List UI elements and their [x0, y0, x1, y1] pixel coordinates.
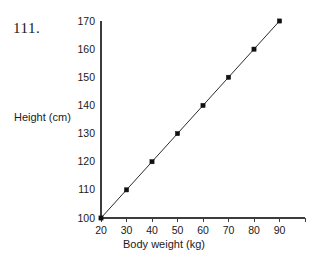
svg-text:60: 60	[197, 224, 209, 236]
svg-text:140: 140	[77, 99, 95, 111]
svg-text:150: 150	[77, 71, 95, 83]
svg-text:90: 90	[274, 224, 286, 236]
svg-text:30: 30	[121, 224, 133, 236]
x-axis-tick-labels: 2030405060708090	[95, 224, 285, 236]
svg-text:20: 20	[95, 224, 107, 236]
svg-text:110: 110	[78, 183, 95, 195]
svg-text:100: 100	[77, 212, 95, 224]
svg-text:50: 50	[172, 224, 184, 236]
svg-text:130: 130	[77, 127, 95, 139]
data-point	[252, 47, 256, 51]
y-axis-tick-labels: 100110120130140150160170	[77, 15, 95, 224]
data-point	[150, 160, 154, 164]
svg-text:120: 120	[77, 155, 95, 167]
data-point	[99, 216, 103, 220]
svg-text:80: 80	[248, 224, 260, 236]
svg-text:160: 160	[77, 43, 95, 55]
plot-area: 100110120130140150160170 203040506070809…	[0, 0, 328, 266]
data-point	[124, 188, 128, 192]
data-point	[277, 19, 281, 23]
chart-figure: 111. Height (cm) Body weight (kg) 100110…	[0, 0, 328, 266]
data-point	[201, 103, 205, 107]
axis-spines	[101, 21, 305, 218]
svg-text:170: 170	[77, 15, 95, 27]
data-point	[226, 75, 230, 79]
data-point	[175, 131, 179, 135]
svg-text:70: 70	[223, 224, 235, 236]
svg-text:40: 40	[146, 224, 158, 236]
